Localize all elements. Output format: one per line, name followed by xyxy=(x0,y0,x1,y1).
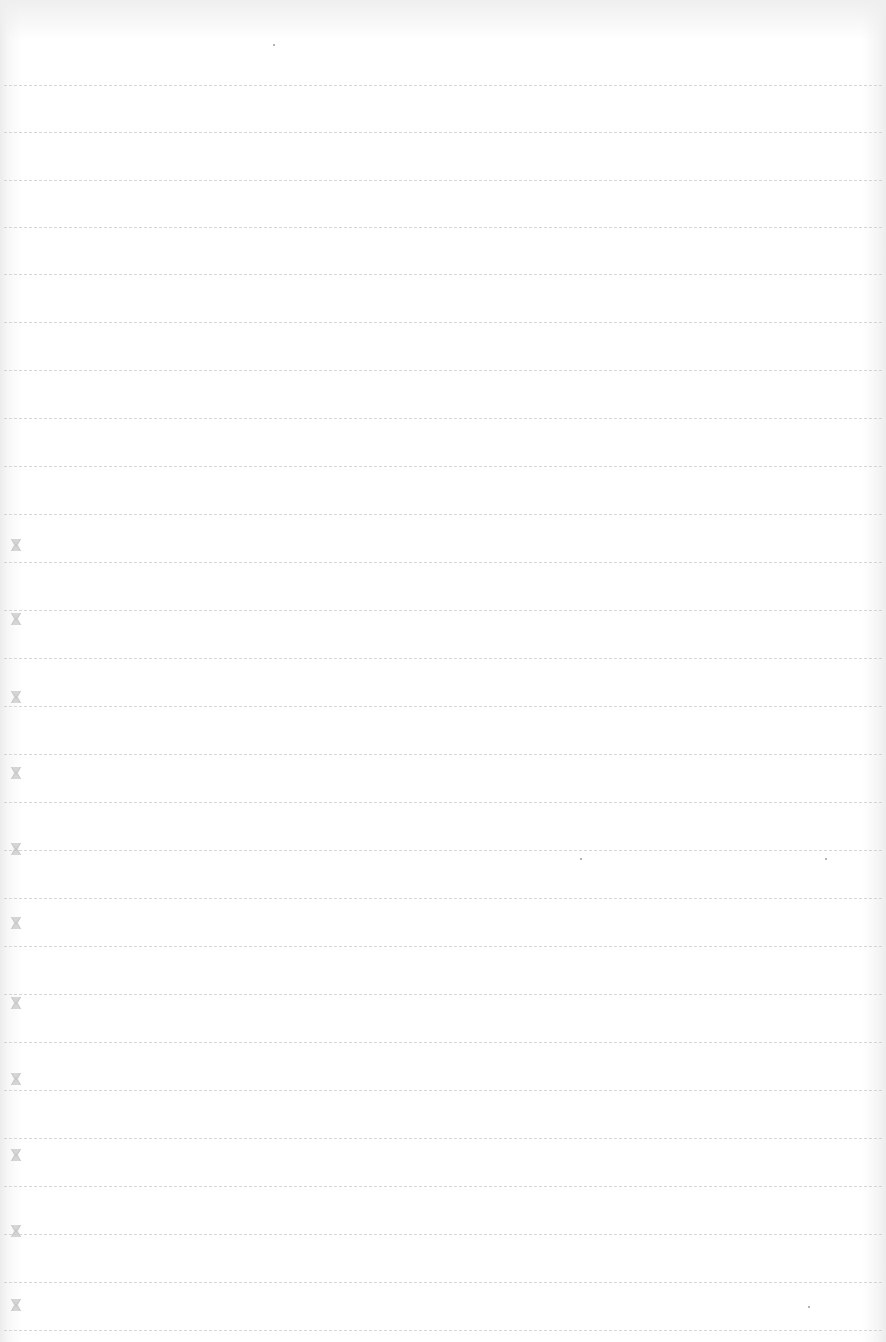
ruled-line xyxy=(4,1042,882,1043)
ruled-line xyxy=(4,1138,882,1139)
bowtie-mark-icon xyxy=(10,1148,22,1162)
bowtie-mark-icon xyxy=(10,1072,22,1086)
bowtie-mark-icon xyxy=(10,766,22,780)
bowtie-mark-icon xyxy=(10,842,22,856)
ruled-line xyxy=(4,132,882,133)
ruled-line xyxy=(4,418,882,419)
ruled-line xyxy=(4,562,882,563)
ruled-line xyxy=(4,898,882,899)
bowtie-mark-icon xyxy=(10,1298,22,1312)
bowtie-mark-icon xyxy=(10,996,22,1010)
paper-speck xyxy=(580,858,582,860)
paper-speck xyxy=(825,858,827,860)
ruled-line xyxy=(4,322,882,323)
paper-speck xyxy=(808,1306,810,1308)
ruled-line xyxy=(4,1234,882,1235)
ruled-line xyxy=(4,514,882,515)
ruled-line xyxy=(4,227,882,228)
ruled-line xyxy=(4,274,882,275)
bowtie-mark-icon xyxy=(10,1224,22,1238)
ruled-line xyxy=(4,994,882,995)
ruled-line xyxy=(4,370,882,371)
ruled-line xyxy=(4,1282,882,1283)
scan-top-shading xyxy=(0,0,886,40)
paper-speck xyxy=(273,44,275,46)
ruled-line xyxy=(4,802,882,803)
ruled-line xyxy=(4,1186,882,1187)
ruled-line xyxy=(4,754,882,755)
ruled-line xyxy=(4,1330,882,1331)
ruled-line xyxy=(4,85,882,86)
ruled-line xyxy=(4,180,882,181)
ruled-line xyxy=(4,706,882,707)
bowtie-mark-icon xyxy=(10,538,22,552)
bowtie-mark-icon xyxy=(10,690,22,704)
ruled-line xyxy=(4,610,882,611)
ruled-line xyxy=(4,946,882,947)
ruled-line xyxy=(4,466,882,467)
bowtie-mark-icon xyxy=(10,612,22,626)
lined-paper-page xyxy=(0,0,886,1342)
bowtie-mark-icon xyxy=(10,916,22,930)
ruled-line xyxy=(4,850,882,851)
ruled-line xyxy=(4,658,882,659)
ruled-line xyxy=(4,1090,882,1091)
